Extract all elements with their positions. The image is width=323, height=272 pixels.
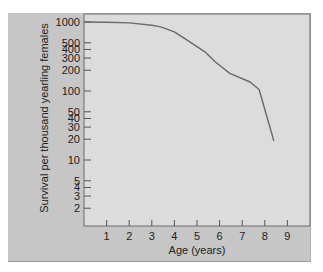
y-tick-label: 1000	[56, 16, 80, 28]
x-tick-label: 3	[149, 230, 155, 242]
x-tick-label: 9	[284, 230, 290, 242]
y-tick-label: 3	[74, 190, 80, 202]
x-axis-title: Age (years)	[169, 244, 226, 256]
y-tick-label: 200	[62, 64, 80, 76]
x-tick-label: 1	[104, 230, 110, 242]
y-tick-label: 2	[74, 202, 80, 214]
plot-area	[84, 14, 310, 226]
y-tick-label: 20	[68, 133, 80, 145]
x-tick-label: 8	[262, 230, 268, 242]
y-tick-label: 30	[68, 121, 80, 133]
y-tick-label: 100	[62, 85, 80, 97]
y-tick-label: 300	[62, 52, 80, 64]
y-axis-title: Survival per thousand yearling females	[38, 23, 50, 213]
survivorship-chart: 100050040030020010050403020105432 123456…	[0, 0, 323, 272]
x-tick-label: 4	[171, 230, 177, 242]
x-tick-label: 6	[217, 230, 223, 242]
x-tick-label: 7	[239, 230, 245, 242]
x-tick-label: 2	[126, 230, 132, 242]
y-tick-label: 10	[68, 154, 80, 166]
x-tick-label: 5	[194, 230, 200, 242]
